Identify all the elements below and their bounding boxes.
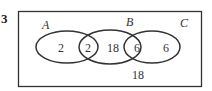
- region-b-only: 18: [107, 41, 119, 55]
- region-outside: 18: [132, 68, 144, 82]
- set-c-label: C: [180, 16, 189, 30]
- set-c-ellipse: [124, 31, 180, 63]
- region-a-only: 2: [58, 41, 64, 55]
- region-b-and-c: 6: [134, 41, 140, 55]
- region-c-only: 6: [163, 41, 169, 55]
- set-a-label: A: [41, 18, 50, 32]
- venn-diagram: A B C 2 2 18 6 6 18: [0, 0, 212, 91]
- set-b-label: B: [126, 15, 134, 29]
- region-a-and-b: 2: [85, 41, 91, 55]
